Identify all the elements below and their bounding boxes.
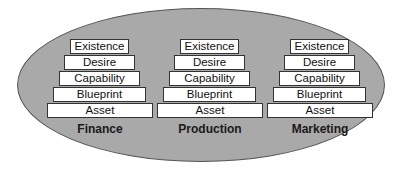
level-blueprint: Blueprint	[273, 87, 366, 102]
level-blueprint: Blueprint	[53, 87, 146, 102]
level-desire: Desire	[174, 55, 245, 70]
level-asset: Asset	[157, 103, 263, 118]
level-existence: Existence	[180, 39, 239, 54]
level-asset: Asset	[47, 103, 153, 118]
level-asset: Asset	[267, 103, 373, 118]
level-blueprint: Blueprint	[163, 87, 256, 102]
column-label-finance: Finance	[47, 122, 153, 136]
level-capability: Capability	[59, 71, 140, 86]
level-existence: Existence	[290, 39, 349, 54]
column-label-marketing: Marketing	[267, 122, 373, 136]
column-label-production: Production	[157, 122, 263, 136]
level-capability: Capability	[169, 71, 250, 86]
level-desire: Desire	[284, 55, 355, 70]
level-capability: Capability	[279, 71, 360, 86]
level-desire: Desire	[64, 55, 135, 70]
level-existence: Existence	[70, 39, 129, 54]
